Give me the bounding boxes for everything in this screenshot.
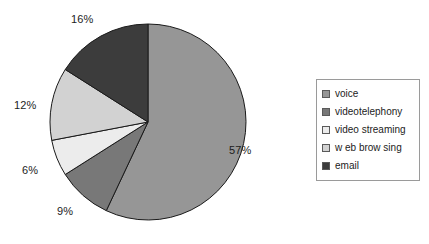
slice-label-web-browsing: 12% — [14, 99, 36, 111]
slice-label-video-streaming: 6% — [22, 164, 38, 176]
legend-swatch-icon-voice — [322, 90, 330, 98]
legend-label-web-browsing: w eb brow sing — [335, 143, 402, 153]
legend-swatch-icon-videotelephony — [322, 108, 330, 116]
legend-label-videotelephony: videotelephony — [335, 107, 402, 117]
legend-swatch-icon-video-streaming — [322, 126, 330, 134]
pie-svg — [0, 0, 300, 244]
pie-chart-figure: 57% 9% 6% 12% 16% voice videotelephony v… — [0, 0, 429, 244]
legend-item-videotelephony[interactable]: videotelephony — [322, 103, 415, 121]
slice-label-email: 16% — [71, 13, 93, 25]
legend-item-voice[interactable]: voice — [322, 85, 415, 103]
pie-slice-group — [50, 24, 246, 220]
legend-item-email[interactable]: email — [322, 157, 415, 175]
legend-label-email: email — [335, 161, 359, 171]
chart-legend: voice videotelephony video streaming w e… — [316, 79, 420, 181]
legend-label-voice: voice — [335, 89, 358, 99]
slice-label-videotelephony: 9% — [57, 205, 73, 217]
legend-item-web-browsing[interactable]: w eb brow sing — [322, 139, 415, 157]
legend-item-video-streaming[interactable]: video streaming — [322, 121, 415, 139]
legend-swatch-icon-web-browsing — [322, 144, 330, 152]
slice-label-voice: 57% — [229, 144, 251, 156]
legend-swatch-icon-email — [322, 162, 330, 170]
pie-plot-area: 57% 9% 6% 12% 16% — [0, 0, 300, 244]
legend-label-video-streaming: video streaming — [335, 125, 406, 135]
